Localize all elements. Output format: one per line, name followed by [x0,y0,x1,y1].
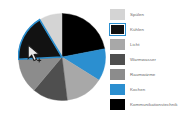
legend-swatch[interactable] [110,69,125,80]
legend-item-label: Licht [130,42,140,48]
chart-legend[interactable]: SpülenKühlenLichtWarmwasserRaumwärmeKoch… [108,7,178,115]
legend-swatch[interactable] [110,9,125,20]
legend-item[interactable]: Kochen [108,82,178,97]
legend-swatch[interactable] [110,84,125,95]
legend-swatch-fill [110,39,125,50]
pie-chart-svg[interactable] [18,13,106,101]
legend-item-label: Raumwärme [130,72,155,78]
legend-item-label: Kühlen [130,27,144,33]
legend-swatch[interactable] [110,99,125,110]
legend-item[interactable]: Warmwasser [108,52,178,67]
legend-item[interactable]: Licht [108,37,178,52]
legend-swatch-fill [110,99,125,110]
legend-item[interactable]: Kühlen [108,22,178,37]
legend-item-label: Kochen [130,87,145,93]
legend-item[interactable]: Spülen [108,7,178,22]
legend-swatch-fill [110,24,125,35]
legend-item-label: Warmwasser [130,57,156,63]
legend-swatch[interactable] [110,24,125,35]
legend-swatch-fill [110,84,125,95]
legend-swatch[interactable] [110,54,125,65]
legend-swatch-fill [110,9,125,20]
legend-item-label: Kommunikationstechnik [130,102,177,108]
pie-chart[interactable] [18,13,106,101]
legend-item[interactable]: Kommunikationstechnik [108,97,178,112]
pie-chart-area [0,0,108,116]
legend-item-label: Spülen [130,12,144,18]
legend-swatch[interactable] [110,39,125,50]
legend-swatch-fill [110,69,125,80]
legend-item[interactable]: Raumwärme [108,67,178,82]
chart-canvas: SpülenKühlenLichtWarmwasserRaumwärmeKoch… [0,0,178,116]
legend-swatch-fill [110,54,125,65]
